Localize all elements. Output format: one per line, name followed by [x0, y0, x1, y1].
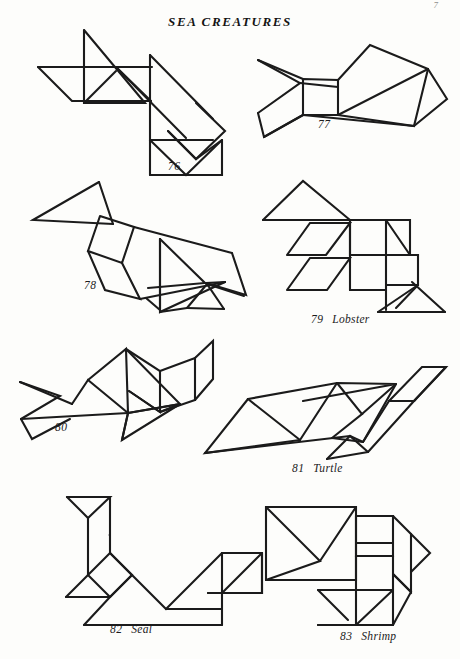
fig78-edge-tail-join: [206, 282, 225, 283]
caption-82: 82Seal: [110, 623, 152, 635]
fig78-edge-fin-top: [207, 284, 244, 296]
figure-79: [263, 181, 445, 312]
fig83-tail-fin: [393, 574, 411, 625]
fig82-head-triangle: [67, 497, 110, 518]
fig83-lower-claw-diagonal: [318, 590, 348, 620]
fig81-shell-mid-diagonal: [300, 383, 337, 440]
fig83-head-triangle-right: [320, 507, 356, 561]
caption-79-number: 79: [311, 313, 323, 325]
fig76-square-rotated: [168, 103, 225, 159]
fig83-head-outline: [266, 507, 356, 580]
fig83-head-triangle-big: [266, 507, 320, 580]
fig82-edge-body-upper-left: [110, 575, 132, 597]
fig77-edge-tail-join: [264, 115, 303, 137]
fig76-edge-small-a: [84, 71, 116, 103]
fig83-tail-parallelogram: [393, 516, 411, 592]
figure-81: [205, 367, 446, 459]
fig80-body-triangle-big: [88, 349, 128, 413]
caption-82-name: Seal: [131, 623, 152, 635]
fig82-flipper-triangle-right: [110, 553, 132, 597]
fig80-dorsal-parallelogram: [126, 349, 160, 412]
caption-77: 77: [318, 118, 339, 130]
caption-81-number: 81: [292, 462, 304, 474]
tangram-figures-svg: [0, 0, 460, 659]
caption-76-number: 76: [168, 160, 180, 172]
fig79-tail-fin-right: [412, 282, 445, 312]
fig76-edge-square-to-base: [168, 131, 222, 159]
caption-81-name: Turtle: [313, 462, 342, 474]
caption-83-number: 83: [340, 630, 352, 642]
caption-81: 81Turtle: [292, 462, 343, 474]
fig80-body-triangle-right: [126, 349, 180, 413]
caption-82-number: 82: [110, 623, 122, 635]
caption-78: 78: [84, 279, 105, 291]
fig79-head-triangle: [263, 181, 350, 220]
fig78-body-parallelogram: [88, 251, 140, 299]
caption-78-number: 78: [84, 279, 96, 291]
caption-83: 83Shrimp: [340, 630, 396, 642]
fig82-edge-body-left: [84, 597, 110, 625]
fig80-wing-parallelogram: [195, 341, 213, 400]
fig77-head-triangle: [414, 69, 447, 126]
fig80-belly-edge: [21, 413, 128, 419]
fig82-flipper-edge: [88, 575, 110, 597]
figure-78: [33, 182, 246, 312]
fig76-triangle-body-right: [150, 55, 213, 140]
fig80-body-triangle-upper: [72, 380, 128, 413]
fig77-tail-lower: [258, 113, 303, 137]
fig80-tail-edge-top: [20, 382, 72, 404]
figure-82: [66, 497, 262, 625]
fig83-tail-triangle-right: [411, 534, 430, 572]
fig77-edge-square-split: [300, 83, 338, 87]
fig78-edge-central-a: [146, 239, 160, 310]
fig81-shell-left-triangle: [205, 399, 300, 453]
fig82-tail-diagonal: [222, 553, 262, 593]
caption-80: 80: [55, 421, 76, 433]
page-canvas: SEA CREATURES 7: [0, 0, 460, 659]
fig79-body-square: [350, 220, 386, 255]
fig83-body-square: [356, 516, 393, 556]
fig79-claw-parallelogram-upper: [287, 223, 350, 255]
caption-83-name: Shrimp: [361, 630, 396, 642]
fig77-tail-top-edge: [258, 60, 303, 79]
figure-80: [20, 341, 213, 440]
fig82-head-edge-left: [67, 497, 88, 518]
fig82-flipper-left: [66, 575, 88, 597]
caption-79-name: Lobster: [332, 313, 369, 325]
fig78-edge-back-long: [134, 227, 232, 253]
fig79-claw-parallelogram-lower: [287, 258, 350, 290]
fig83-edge-tail-diag: [356, 590, 393, 625]
caption-77-number: 77: [318, 118, 330, 130]
fig81-shell-bottom-edge: [205, 436, 350, 453]
fig81-flipper-diagonal: [414, 367, 446, 401]
fig79-lower-body: [386, 255, 418, 285]
figure-77: [258, 45, 447, 137]
fig81-shell-left-diagonal: [248, 399, 300, 440]
caption-79: 79Lobster: [311, 313, 370, 325]
fig79-tail-diagonal: [386, 220, 410, 255]
figure-76: [38, 30, 225, 175]
fig77-body-diagonal: [338, 69, 428, 115]
fig77-body-lower-right: [338, 69, 428, 126]
fig82-edge-neck-lower: [88, 553, 110, 575]
fig78-fin-small-base: [187, 308, 224, 309]
caption-80-number: 80: [55, 421, 67, 433]
fig78-triangle-central: [148, 239, 205, 288]
figure-83: [266, 507, 430, 625]
fig80-tail-upper: [20, 382, 60, 419]
caption-76: 76: [168, 160, 189, 172]
fig81-shell-top-edge: [248, 383, 396, 401]
